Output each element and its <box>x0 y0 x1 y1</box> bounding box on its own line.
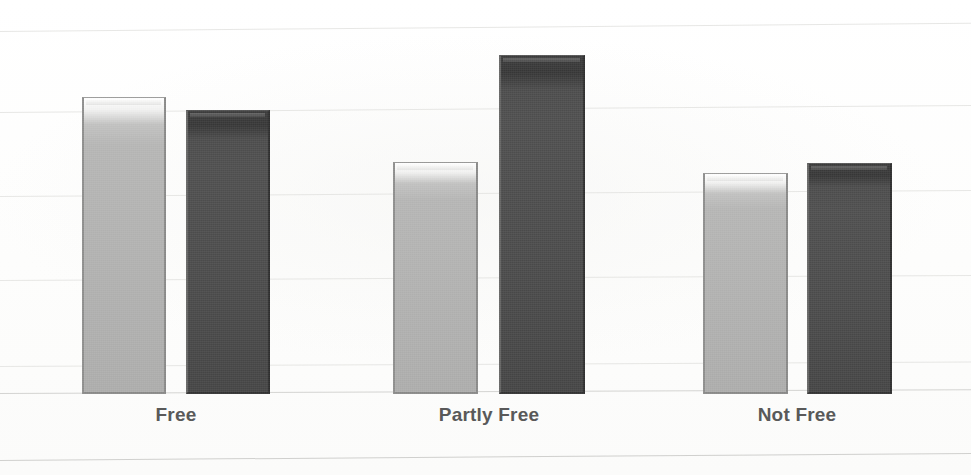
bar-not-free-series2 <box>807 163 892 394</box>
category-label-not-free: Not Free <box>717 404 877 426</box>
chart-bottom-rule <box>0 453 971 461</box>
bar-partly-free-series2 <box>499 55 585 394</box>
bar-body <box>393 162 478 394</box>
bar-chart: Free Partly Free Not Free Series 1 Serie… <box>0 0 971 475</box>
bar-free-series2 <box>186 110 270 394</box>
bar-body <box>82 97 166 394</box>
category-label-free: Free <box>96 404 256 426</box>
bar-body <box>703 173 788 394</box>
bar-body <box>807 163 892 394</box>
bar-body <box>186 110 270 394</box>
plot-area: Free Partly Free Not Free <box>0 0 971 475</box>
category-label-partly-free: Partly Free <box>409 404 569 426</box>
bar-not-free-series1 <box>703 173 788 394</box>
gridline-50 <box>0 23 971 32</box>
bar-free-series1 <box>82 97 166 394</box>
bar-partly-free-series1 <box>393 162 478 394</box>
bar-body <box>499 55 585 394</box>
